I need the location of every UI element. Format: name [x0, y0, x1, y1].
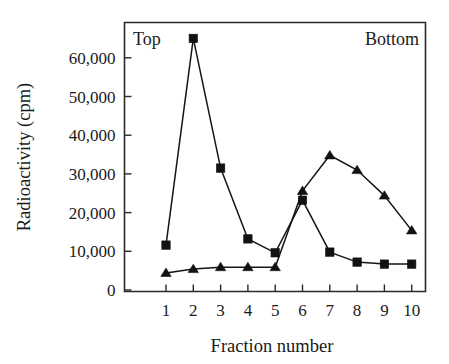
chart-figure: 010,00020,00030,00040,00050,00060,000 12…: [0, 0, 449, 364]
square-series-point-7: [326, 248, 334, 256]
square-series-point-8: [353, 258, 361, 266]
square-series-point-1: [162, 241, 170, 249]
square-series-point-5: [271, 249, 279, 257]
x-axis-title: Fraction number: [211, 336, 334, 356]
y-tick-label-50000: 50,000: [69, 88, 116, 107]
y-tick-label-0: 0: [107, 281, 116, 300]
y-axis-title: Radioactivity (cpm): [14, 83, 35, 231]
square-series-point-9: [380, 260, 388, 268]
y-tick-label-10000: 10,000: [69, 242, 116, 261]
y-tick-label-30000: 30,000: [69, 165, 116, 184]
y-tick-label-20000: 20,000: [69, 204, 116, 223]
x-tick-label-8: 8: [353, 301, 362, 320]
x-tick-label-4: 4: [244, 301, 253, 320]
x-tick-label-5: 5: [271, 301, 280, 320]
square-series-point-3: [216, 164, 224, 172]
square-series-point-4: [244, 235, 252, 243]
bottom-label: Bottom: [365, 29, 419, 49]
x-tick-label-1: 1: [162, 301, 171, 320]
x-tick-label-7: 7: [326, 301, 335, 320]
square-series-point-2: [189, 34, 197, 42]
y-tick-label-60000: 60,000: [69, 49, 116, 68]
x-tick-label-6: 6: [298, 301, 307, 320]
square-series-point-10: [408, 260, 416, 268]
y-tick-label-40000: 40,000: [69, 126, 116, 145]
x-tick-label-2: 2: [189, 301, 198, 320]
x-tick-label-3: 3: [216, 301, 225, 320]
x-tick-label-9: 9: [380, 301, 389, 320]
top-label: Top: [133, 29, 161, 49]
radioactivity-fraction-chart: 010,00020,00030,00040,00050,00060,000 12…: [0, 0, 449, 364]
x-tick-label-10: 10: [403, 301, 420, 320]
